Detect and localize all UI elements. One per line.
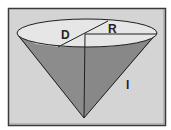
radius-label: R [108,22,117,36]
cone-diagram: D R l [0,0,171,130]
slant-height-label: l [126,78,129,92]
cone-base-ellipse [17,19,157,47]
diameter-label: D [61,28,70,42]
